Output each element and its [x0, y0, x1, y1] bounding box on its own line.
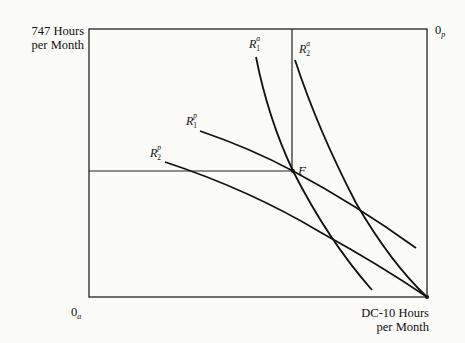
corner-marker — [425, 295, 429, 299]
curve-label-base: R — [299, 42, 306, 56]
y-axis-label: 747 Hours per Month — [6, 24, 84, 52]
curve-r1-p — [200, 131, 416, 248]
curve-label-r1-p: Rp1 — [186, 114, 199, 129]
x-axis-label-line2: per Month — [361, 320, 429, 334]
curve-r2-p — [165, 162, 427, 297]
curve-r1-a — [256, 57, 372, 290]
point-f-marker — [291, 169, 295, 173]
x-axis-label: DC-10 Hours per Month — [361, 306, 429, 334]
x-axis-label-line1: DC-10 Hours — [361, 306, 429, 320]
origin-a-label: 0a — [71, 305, 81, 324]
origin-p-sub: p — [441, 30, 445, 39]
curve-label-sup: p — [193, 111, 197, 120]
curve-label-sub: 2 — [306, 49, 310, 58]
y-axis-label-line1: 747 Hours — [6, 24, 84, 38]
curve-label-r2-a: Ra2 — [299, 42, 312, 57]
curve-label-sup: a — [256, 34, 260, 43]
curve-label-sub: 1 — [256, 44, 260, 53]
curve-label-sub: 2 — [157, 153, 161, 162]
curve-label-base: R — [249, 37, 256, 51]
origin-a-sub: a — [77, 312, 81, 321]
origin-p-label: 0p — [435, 23, 445, 42]
curve-label-sup: p — [157, 143, 161, 152]
curve-label-r2-p: Rp2 — [150, 146, 163, 161]
curve-label-sup: a — [306, 39, 310, 48]
curve-label-sub: 1 — [193, 121, 197, 130]
curve-label-r1-a: Ra1 — [249, 37, 262, 52]
y-axis-label-line2: per Month — [6, 38, 84, 52]
point-f-label: F — [298, 163, 306, 179]
curve-r2-a — [295, 60, 427, 297]
